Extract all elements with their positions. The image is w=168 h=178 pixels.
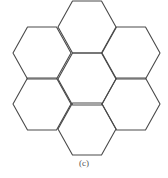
figure-caption: (c) [0, 158, 168, 168]
hexagon-lower-right [102, 78, 160, 130]
hexagon-upper-right [102, 27, 160, 79]
hexagon-cluster-diagram [0, 0, 168, 178]
